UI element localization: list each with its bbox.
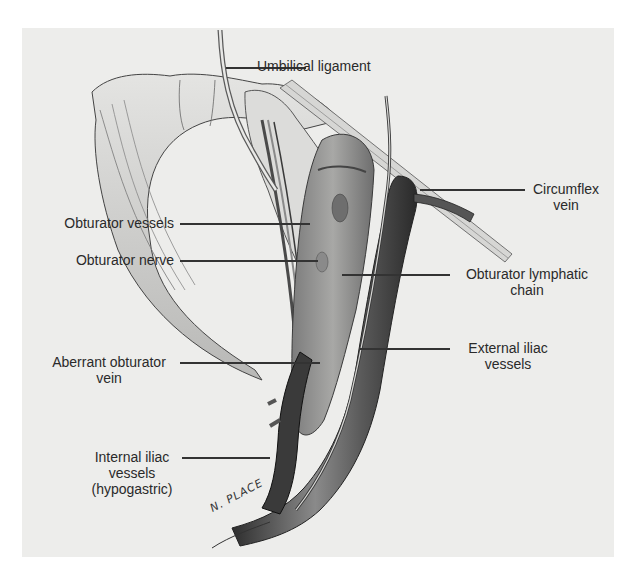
label-text: chain: [452, 282, 602, 298]
label-text: Obturator vessels: [64, 215, 174, 231]
leader-external-iliac-vessels: [360, 348, 450, 350]
label-text: Internal iliac: [82, 449, 182, 465]
label-text: vessels: [452, 356, 564, 372]
label-text: Obturator lymphatic: [452, 266, 602, 282]
label-text: Circumflex: [520, 181, 612, 197]
label-text: vein: [520, 197, 612, 213]
leader-circumflex-vein: [420, 189, 525, 191]
circumflex-vein-shape: [414, 194, 474, 222]
label-text: Obturator nerve: [76, 252, 174, 268]
label-text: (hypogastric): [82, 481, 182, 497]
label-text: vessels: [82, 465, 182, 481]
label-obturator-vessels: Obturator vessels: [30, 215, 174, 231]
leader-obturator-nerve: [180, 260, 318, 262]
leader-aberrant-obturator-vein: [180, 362, 320, 364]
leader-internal-iliac-vessels: [182, 457, 270, 459]
label-text: Aberrant obturator: [42, 354, 176, 370]
label-internal-iliac-vessels: Internal iliac vessels (hypogastric): [82, 449, 182, 497]
label-text: External iliac: [452, 340, 564, 356]
label-text: Umbilical ligament: [257, 58, 371, 74]
label-text: vein: [42, 370, 176, 386]
leader-obturator-lymphatic-chain: [342, 274, 450, 276]
label-umbilical-ligament: Umbilical ligament: [257, 58, 371, 74]
label-aberrant-obturator-vein: Aberrant obturator vein: [42, 354, 176, 386]
leader-obturator-vessels: [180, 223, 310, 225]
label-obturator-nerve: Obturator nerve: [30, 252, 174, 268]
label-external-iliac-vessels: External iliac vessels: [452, 340, 564, 372]
label-obturator-lymphatic-chain: Obturator lymphatic chain: [452, 266, 602, 298]
label-circumflex-vein: Circumflex vein: [520, 181, 612, 213]
